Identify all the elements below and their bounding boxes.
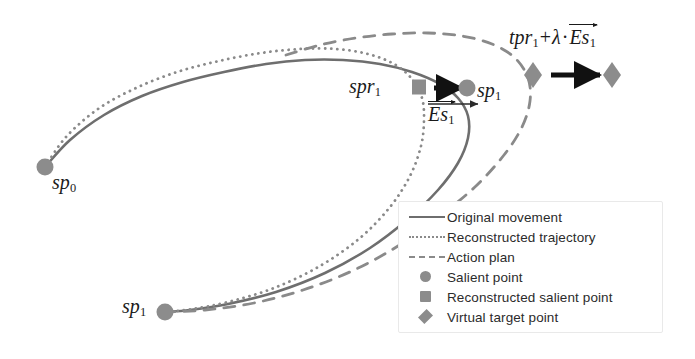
- line-dashed-glyph: [409, 256, 445, 258]
- legend-row-line-solid: Original movement: [399, 207, 662, 227]
- legend-label: Reconstructed trajectory: [447, 230, 596, 245]
- legend-key-line-solid-icon: [407, 207, 447, 227]
- legend-row-marker-circle: Salient point: [399, 267, 662, 287]
- legend-label: Original movement: [447, 210, 562, 225]
- legend-key-marker-square-icon: [407, 287, 447, 307]
- plus-operator: +: [539, 26, 552, 48]
- trajectory-diagram: sp0 sp1 spr1 sp1 Es1 tpr1+λ·Es1 Original…: [0, 0, 695, 359]
- label-spr1: spr1: [349, 76, 381, 99]
- legend-key-marker-diamond-icon: [407, 307, 447, 327]
- label-sp1-upper: sp1: [477, 80, 501, 103]
- marker-square-glyph: [420, 291, 431, 302]
- marker-diamond-glyph: [418, 309, 433, 324]
- line-solid-glyph: [409, 216, 445, 218]
- legend-key-line-dotted-icon: [407, 227, 447, 247]
- marker-spr1: [412, 80, 426, 95]
- legend-label: Virtual target point: [447, 310, 558, 325]
- marker-sp1_upper: [459, 80, 476, 97]
- label-sp0: sp0: [52, 172, 76, 195]
- legend-box: Original movementReconstructed trajector…: [398, 201, 663, 333]
- label-es1-vector: Es1: [428, 103, 454, 127]
- legend-row-marker-diamond: Virtual target point: [399, 307, 662, 327]
- marker-sp1_lower: [157, 304, 174, 321]
- legend-row-line-dotted: Reconstructed trajectory: [399, 227, 662, 247]
- legend-key-marker-circle-icon: [407, 267, 447, 287]
- legend-row-line-dashed: Action plan: [399, 247, 662, 267]
- label-sp1-lower: sp1: [122, 296, 146, 319]
- legend-label: Reconstructed salient point: [447, 290, 613, 305]
- label-virtual-target-formula: tpr1+λ·Es1: [509, 26, 596, 50]
- line-dotted-glyph: [409, 236, 445, 238]
- vector-arrow-overline: [569, 24, 596, 25]
- vector-arrow-overline: [428, 101, 455, 102]
- marker-virtual_target: [603, 62, 621, 88]
- legend-key-line-dashed-icon: [407, 247, 447, 267]
- marker-tpr1: [524, 62, 542, 88]
- lambda-symbol: λ: [552, 26, 561, 48]
- legend-row-marker-square: Reconstructed salient point: [399, 287, 662, 307]
- marker-circle-glyph: [420, 271, 431, 282]
- legend-label: Action plan: [447, 250, 515, 265]
- marker-sp0: [37, 159, 54, 176]
- legend-label: Salient point: [447, 270, 523, 285]
